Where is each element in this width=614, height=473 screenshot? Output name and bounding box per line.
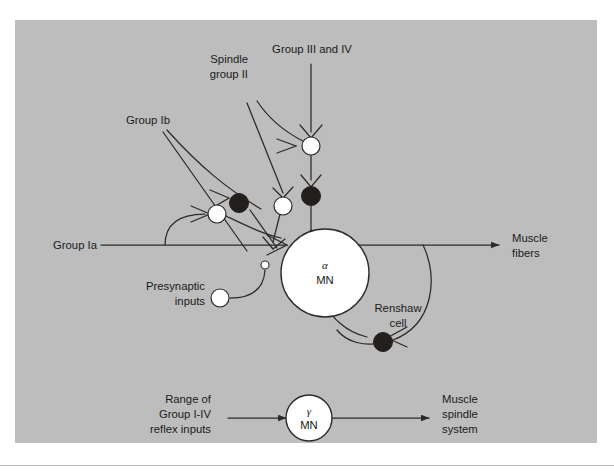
label-group-ia: Group Ia xyxy=(53,239,98,251)
interneuron-presynaptic-input[interactable] xyxy=(211,289,229,307)
neural-circuit-diagram: α MN γ MN Group Ib Spindle group II Grou… xyxy=(15,20,597,443)
label-range-line2: Group I-IV xyxy=(159,408,212,420)
label-renshaw-line2: cell xyxy=(390,317,407,329)
bottom-divider-rule xyxy=(0,465,614,466)
alpha-mn-label: MN xyxy=(316,274,334,286)
interneuron-group-ia-excitatory[interactable] xyxy=(208,205,226,223)
label-renshaw-line1: Renshaw xyxy=(374,302,422,314)
label-range-line1: Range of xyxy=(165,393,212,405)
label-range-line3: reflex inputs xyxy=(150,423,211,435)
alpha-mn-symbol: α xyxy=(322,259,328,271)
interneuron-group-iii-iv-excitatory[interactable] xyxy=(302,137,320,155)
label-muscle-fibers-line2: fibers xyxy=(512,247,540,259)
label-presynaptic-line1: Presynaptic xyxy=(146,280,205,292)
label-group-iii-and-iv: Group III and IV xyxy=(272,43,352,55)
label-group-ib: Group Ib xyxy=(126,114,170,126)
label-spindle-group-ii-line1: Spindle xyxy=(210,53,248,65)
label-spindle-group-ii-line2: group II xyxy=(210,68,248,80)
renshaw-cell-body[interactable] xyxy=(374,333,393,352)
interneuron-spindle-group-ii-excitatory[interactable] xyxy=(274,197,292,215)
label-muscle-fibers-line1: Muscle xyxy=(512,232,548,244)
label-presynaptic-line2: inputs xyxy=(175,295,205,307)
label-muscle-spindle-line1: Muscle xyxy=(442,393,478,405)
gamma-mn-symbol: γ xyxy=(307,405,312,417)
label-muscle-spindle-line3: system xyxy=(442,423,478,435)
alpha-motor-neuron-soma[interactable] xyxy=(281,229,369,317)
interneuron-group-ib-inhibitory[interactable] xyxy=(230,194,249,213)
figure-root: α MN γ MN Group Ib Spindle group II Grou… xyxy=(0,0,614,473)
interneuron-group-iii-iv-inhibitory[interactable] xyxy=(302,187,321,206)
diagram-panel: α MN γ MN Group Ib Spindle group II Grou… xyxy=(15,20,597,443)
gamma-mn-label: MN xyxy=(300,419,318,431)
gamma-motor-neuron-soma[interactable] xyxy=(286,395,332,441)
panel-background xyxy=(15,20,597,443)
presynaptic-bouton[interactable] xyxy=(261,261,269,269)
label-muscle-spindle-line2: spindle xyxy=(442,408,478,420)
